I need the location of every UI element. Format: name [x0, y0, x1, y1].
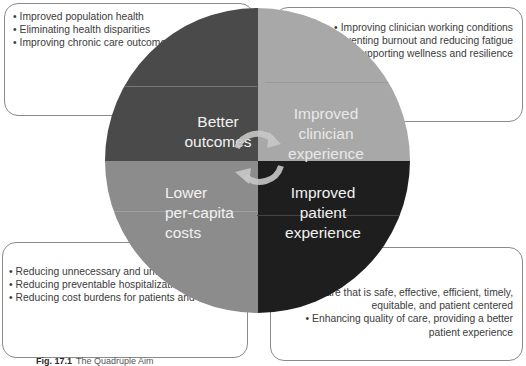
- quadruple-aim-circle: Better outcomes Improved clinician exper…: [105, 8, 410, 313]
- divider-line: [265, 82, 410, 83]
- divider-line: [105, 86, 257, 87]
- figure-caption: Fig. 17.1The Quadruple Aim: [36, 356, 154, 366]
- cycle-arrows-icon: [229, 126, 289, 192]
- bullet-item: • Enhancing quality of care, providing a…: [273, 312, 513, 338]
- label-lower-costs: Lower per-capita costs: [165, 183, 265, 243]
- label-patient-experience: Improved patient experience: [268, 183, 378, 243]
